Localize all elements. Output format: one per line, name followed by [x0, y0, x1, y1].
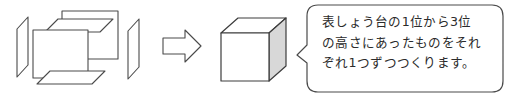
assembled-cube-group: [221, 18, 286, 81]
exploded-cube-group: [17, 11, 139, 84]
exploded-face-left: [17, 17, 28, 77]
right-arrow-icon: [163, 30, 201, 62]
figure-root: 表しょう台の1位から3位 の高さにあったものをそれ ぞれ1つずつつくります。: [0, 0, 511, 97]
speech-bubble-line-3: ぞれ1つずつつくります。: [322, 53, 498, 74]
cube-face-front: [221, 33, 269, 81]
speech-bubble-line-1: 表しょう台の1位から3位: [322, 12, 498, 33]
speech-bubble-line-2: の高さにあったものをそれ: [322, 33, 498, 54]
exploded-face-right: [128, 19, 139, 79]
speech-bubble-text: 表しょう台の1位から3位 の高さにあったものをそれ ぞれ1つずつつくります。: [322, 12, 498, 84]
